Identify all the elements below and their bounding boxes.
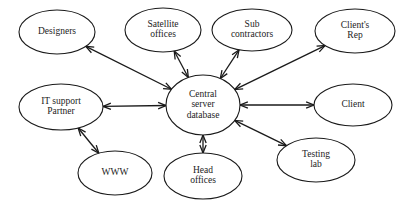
edge-center-it-support-partner (103, 102, 166, 109)
node-testing-lab[interactable]: Testinglab (277, 138, 355, 182)
node-label-line: Designers (38, 26, 76, 36)
node-label-central-server-database: Centralserverdatabase (187, 89, 220, 120)
node-label-line: Rep (347, 30, 363, 40)
node-sub-contractors[interactable]: Subcontractors (212, 9, 292, 51)
node-label-line: contractors (231, 29, 274, 39)
node-label-designers: Designers (38, 26, 76, 36)
node-label-www: WWW (102, 167, 129, 177)
edge-shaft (78, 128, 99, 153)
node-label-line: Sub (245, 19, 260, 29)
node-designers[interactable]: Designers (19, 10, 95, 54)
edge-it-support-partner-www (78, 128, 99, 153)
node-central-server-database[interactable]: Centralserverdatabase (166, 75, 240, 135)
diagram-canvas: DesignersSatelliteofficesSubcontractorsC… (0, 0, 408, 211)
edge-center-testing-lab (235, 120, 287, 145)
node-it-support-partner[interactable]: IT supportPartner (19, 84, 103, 130)
edge-shaft (235, 120, 287, 145)
edge-shaft (103, 106, 166, 107)
node-label-line: Satellite (147, 19, 178, 29)
edge-center-client (240, 102, 314, 108)
edge-shaft (235, 46, 325, 90)
node-www[interactable]: WWW (78, 151, 152, 195)
node-label-satellite-offices: Satelliteoffices (147, 19, 178, 40)
diagram-svg: DesignersSatelliteofficesSubcontractorsC… (0, 0, 408, 211)
node-label-line: offices (190, 175, 216, 185)
nodes-layer: DesignersSatelliteofficesSubcontractorsC… (19, 8, 395, 199)
node-label-line: Testing (302, 149, 330, 159)
node-label-line: database (187, 110, 220, 120)
node-client[interactable]: Client (314, 84, 392, 126)
edge-center-designers (86, 46, 172, 89)
node-label-line: Central (189, 89, 217, 99)
node-label-line: Client's (341, 20, 370, 30)
node-label-line: offices (150, 29, 176, 39)
node-head-offices[interactable]: Headoffices (164, 153, 242, 199)
node-satellite-offices[interactable]: Satelliteoffices (125, 8, 201, 52)
edge-shaft (174, 51, 188, 77)
edge-center-head-offices (200, 135, 206, 153)
node-label-line: lab (310, 159, 322, 169)
node-label-head-offices: Headoffices (190, 165, 216, 186)
node-label-line: server (191, 99, 215, 109)
edge-center-clients-rep (235, 46, 325, 90)
node-label-line: IT support (41, 96, 81, 106)
node-label-line: WWW (102, 167, 129, 177)
edge-center-sub-contractors (220, 50, 239, 79)
edge-shaft (86, 46, 172, 89)
node-label-client: Client (341, 99, 365, 109)
node-label-line: Client (341, 99, 365, 109)
node-label-line: Partner (47, 106, 75, 116)
node-clients-rep[interactable]: Client'sRep (315, 9, 395, 53)
node-label-line: Head (193, 165, 213, 175)
edge-shaft (220, 50, 239, 79)
edge-center-satellite-offices (174, 51, 188, 77)
